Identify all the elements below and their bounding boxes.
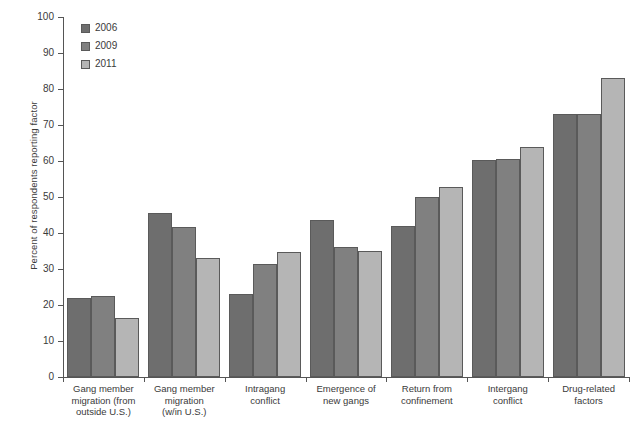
y-tick-90: 90 — [0, 53, 63, 54]
y-tick-30: 30 — [0, 269, 63, 270]
bar — [391, 226, 415, 377]
x-axis-category-label-line: Gang member — [63, 383, 144, 395]
y-tick-label: 60 — [43, 155, 54, 166]
x-axis-category-label-line: Drug-related — [548, 383, 629, 395]
x-axis-category-label-line: migration — [144, 395, 225, 407]
bar — [577, 114, 601, 377]
bar — [253, 264, 277, 377]
y-tick-70: 70 — [0, 125, 63, 126]
bar — [553, 114, 577, 377]
bar — [496, 159, 520, 377]
legend-swatch-icon — [81, 42, 90, 51]
bar-chart: Percent of respondents reporting factor … — [0, 0, 635, 429]
y-tick-60: 60 — [0, 161, 63, 162]
bar — [472, 160, 496, 377]
x-tick-mark — [63, 377, 64, 382]
x-axis-category-label-line: Intragang — [225, 383, 306, 395]
x-axis-category-label: Emergence ofnew gangs — [306, 383, 387, 406]
x-axis-category-label-line: (w/in U.S.) — [144, 406, 225, 418]
y-tick-mark — [58, 341, 63, 342]
x-axis-category-label: Return fromconfinement — [386, 383, 467, 406]
y-tick-label: 50 — [43, 191, 54, 202]
y-axis-line — [63, 17, 64, 378]
bar — [601, 78, 625, 377]
x-tick-mark — [548, 377, 549, 382]
bar — [196, 258, 220, 377]
x-tick-mark — [467, 377, 468, 382]
legend-label: 2011 — [95, 57, 117, 71]
y-tick-100: 100 — [0, 17, 63, 18]
x-axis-category-label-line: new gangs — [306, 395, 387, 407]
y-tick-40: 40 — [0, 233, 63, 234]
y-tick-0: 0 — [0, 377, 63, 378]
bar — [148, 213, 172, 377]
x-axis-category-label: Intragangconflict — [225, 383, 306, 406]
x-tick-mark — [629, 377, 630, 382]
bar — [229, 294, 253, 377]
y-tick-mark — [58, 233, 63, 234]
x-tick-mark — [225, 377, 226, 382]
bar — [67, 298, 91, 377]
y-tick-label: 90 — [43, 47, 54, 58]
bar — [334, 247, 358, 377]
y-tick-mark — [58, 53, 63, 54]
y-tick-mark — [58, 161, 63, 162]
y-tick-label: 0 — [48, 371, 54, 382]
bar — [277, 252, 301, 377]
y-tick-label: 40 — [43, 227, 54, 238]
x-axis-category-label: Drug-relatedfactors — [548, 383, 629, 406]
bar — [520, 147, 544, 377]
bar — [439, 187, 463, 377]
y-tick-mark — [58, 197, 63, 198]
y-tick-mark — [58, 125, 63, 126]
y-tick-mark — [58, 305, 63, 306]
y-tick-label: 20 — [43, 299, 54, 310]
y-tick-20: 20 — [0, 305, 63, 306]
x-axis-category-label-line: Gang member — [144, 383, 225, 395]
y-tick-mark — [58, 17, 63, 18]
legend-label: 2006 — [95, 21, 117, 35]
y-tick-10: 10 — [0, 341, 63, 342]
x-axis-category-label-line: Emergence of — [306, 383, 387, 395]
y-tick-label: 30 — [43, 263, 54, 274]
x-tick-mark — [306, 377, 307, 382]
bar — [310, 220, 334, 377]
x-axis-category-label-line: conflict — [467, 395, 548, 407]
y-axis-title: Percent of respondents reporting factor — [28, 76, 39, 296]
bar — [358, 251, 382, 377]
x-axis-category-label-line: Intergang — [467, 383, 548, 395]
x-axis-category-label-line: Return from — [386, 383, 467, 395]
y-tick-label: 10 — [43, 335, 54, 346]
y-tick-50: 50 — [0, 197, 63, 198]
bar — [172, 227, 196, 377]
x-tick-mark — [386, 377, 387, 382]
x-axis-category-label: Gang membermigration (fromoutside U.S.) — [63, 383, 144, 418]
y-tick-mark — [58, 269, 63, 270]
legend-label: 2009 — [95, 39, 117, 53]
bar — [115, 318, 139, 377]
bar — [91, 296, 115, 377]
x-axis-category-label-line: outside U.S.) — [63, 406, 144, 418]
y-tick-label: 100 — [37, 11, 54, 22]
legend-swatch-icon — [81, 60, 90, 69]
x-axis-category-label: Gang membermigration(w/in U.S.) — [144, 383, 225, 418]
x-axis-category-label: Intergangconflict — [467, 383, 548, 406]
x-tick-mark — [144, 377, 145, 382]
legend-swatch-icon — [81, 24, 90, 33]
x-axis-category-label-line: migration (from — [63, 395, 144, 407]
x-axis-category-label-line: confinement — [386, 395, 467, 407]
y-tick-label: 70 — [43, 119, 54, 130]
bar — [415, 197, 439, 377]
x-axis-line — [63, 377, 629, 378]
x-axis-category-label-line: conflict — [225, 395, 306, 407]
y-tick-80: 80 — [0, 89, 63, 90]
y-tick-mark — [58, 89, 63, 90]
x-axis-category-label-line: factors — [548, 395, 629, 407]
y-tick-label: 80 — [43, 83, 54, 94]
